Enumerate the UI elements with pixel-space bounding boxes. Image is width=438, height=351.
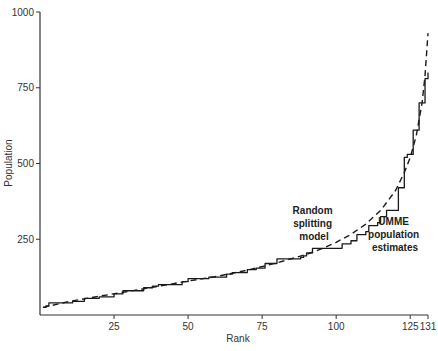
y-axis-label: Population: [3, 139, 14, 186]
y-tick-label: 500: [17, 158, 34, 169]
y-tick-label: 250: [17, 234, 34, 245]
random-splitting-model-line: [43, 33, 428, 307]
annotation-umme-estimates: UMME population estimates: [368, 216, 422, 253]
axes: 2505007501000255075100125131: [12, 7, 437, 333]
x-tick-label: 75: [257, 321, 269, 332]
x-tick-label: 50: [183, 321, 195, 332]
y-tick-label: 750: [17, 82, 34, 93]
chart: 2505007501000255075100125131 Rank Popula…: [0, 0, 438, 351]
series-layer: [43, 33, 428, 307]
x-tick-label: 100: [328, 321, 345, 332]
x-tick-label: 25: [108, 321, 120, 332]
x-tick-label: 125: [402, 321, 419, 332]
y-tick-label: 1000: [12, 7, 35, 18]
x-axis-label: Rank: [226, 333, 250, 344]
annotation-random-splitting-model: Random splitting model: [293, 205, 336, 242]
x-tick-label: 131: [420, 321, 437, 332]
